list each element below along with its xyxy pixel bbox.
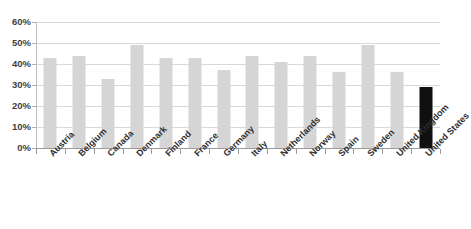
chart-title-cropped xyxy=(0,0,444,3)
x-axis-tick-mark xyxy=(440,149,441,154)
y-axis-tick-label: 50% xyxy=(0,38,31,47)
bar-slot xyxy=(209,22,238,148)
x-axis-category-labels: AustriaBelgiumCanadaDenmarkFinlandFrance… xyxy=(36,152,440,229)
bar-slot xyxy=(36,22,65,148)
bar-austria[interactable] xyxy=(44,58,57,148)
bar-slot xyxy=(353,22,382,148)
y-axis-tick-label: 10% xyxy=(0,122,31,131)
y-axis-labels: 60%50%40%30%20%10%0% xyxy=(0,0,34,229)
bar-netherlands[interactable] xyxy=(275,62,288,148)
bar-slot xyxy=(267,22,296,148)
y-axis-tick-label: 0% xyxy=(0,143,31,152)
y-axis-tick-label: 20% xyxy=(0,101,31,110)
bar-sweden[interactable] xyxy=(361,45,374,148)
y-axis-tick-label: 40% xyxy=(0,59,31,68)
y-axis-tick-label: 30% xyxy=(0,80,31,89)
y-axis-tick-label: 60% xyxy=(0,17,31,26)
